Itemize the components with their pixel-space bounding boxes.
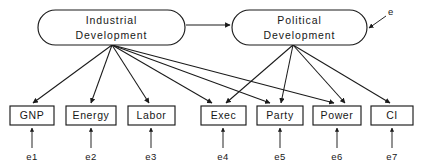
edge-industrial-to-party [112,45,270,103]
exec-label: Exec [211,109,237,121]
power-label: Power [321,109,354,121]
edges-from-industrial-development [33,45,334,103]
error-term-labels: e1 e2 e3 e4 e5 e6 e7 [26,151,398,162]
edge-political-to-ci [293,45,390,103]
error-label-e7: e7 [386,151,398,162]
error-label-e3: e3 [145,151,157,162]
industrial-development-label-line1: Industrial [86,14,138,26]
edge-industrial-to-exec [112,45,212,103]
edge-industrial-to-gnp [33,45,112,103]
ci-label: CI [386,109,398,121]
node-exec[interactable]: Exec [201,106,246,125]
gnp-label: GNP [20,109,45,121]
industrial-development-label-line2: Development [76,29,148,41]
labor-label: Labor [137,109,167,121]
political-development-label-line1: Political [277,14,321,26]
error-label-e6: e6 [331,151,343,162]
node-gnp[interactable]: GNP [10,106,54,125]
political-development-label-line2: Development [264,29,336,41]
path-diagram-svg: Industrial Development Political Develop… [0,0,422,167]
node-political-development[interactable]: Political Development [232,10,367,45]
node-power[interactable]: Power [313,106,361,125]
error-label-e1: e1 [26,151,38,162]
node-industrial-development[interactable]: Industrial Development [38,10,185,45]
edge-industrial-to-energy [91,45,112,103]
error-label-e5: e5 [274,151,286,162]
disturbance-label-e: e [388,6,394,17]
node-party[interactable]: Party [257,106,303,125]
edge-disturbance-to-political [369,16,386,28]
error-label-e4: e4 [217,151,229,162]
error-label-e2: e2 [85,151,97,162]
node-ci[interactable]: CI [371,106,413,125]
path-diagram-canvas: Industrial Development Political Develop… [0,0,422,167]
energy-label: Energy [73,109,110,121]
node-labor[interactable]: Labor [128,106,175,125]
party-label: Party [266,109,294,121]
edges-from-political-development [226,45,390,103]
node-energy[interactable]: Energy [66,106,116,125]
edges-from-error-terms [32,128,392,148]
